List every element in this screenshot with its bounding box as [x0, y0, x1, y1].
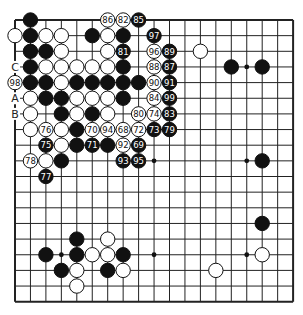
- black-stone: [85, 75, 99, 89]
- white-stone: 98: [8, 75, 22, 89]
- white-stone: [54, 138, 68, 152]
- black-stone: [224, 60, 238, 74]
- move-number: 78: [25, 156, 36, 166]
- go-board[interactable]: CAB 868285978196898887989091849980748376…: [0, 0, 303, 315]
- white-stone: [39, 154, 53, 168]
- star-point: [244, 158, 249, 163]
- white-stone: [70, 263, 84, 277]
- black-stone: [85, 28, 99, 42]
- move-number: 99: [164, 93, 175, 103]
- stone-circle: [54, 154, 68, 168]
- white-stone: [70, 107, 84, 121]
- stone-circle: [23, 13, 37, 27]
- white-stone: 90: [147, 75, 161, 89]
- move-number: 81: [118, 47, 129, 57]
- stone-circle: [70, 75, 84, 89]
- black-stone: [255, 216, 269, 230]
- white-stone: [54, 28, 68, 42]
- black-stone: [255, 60, 269, 74]
- black-stone: [23, 44, 37, 58]
- black-stone: 85: [131, 13, 145, 27]
- black-stone: [70, 232, 84, 246]
- black-stone: 79: [162, 122, 176, 136]
- black-stone: [116, 60, 130, 74]
- stone-circle: [39, 60, 53, 74]
- move-number: 93: [118, 156, 129, 166]
- white-stone: [101, 107, 115, 121]
- black-stone: [85, 107, 99, 121]
- move-number: 84: [149, 93, 160, 103]
- stone-circle: [85, 107, 99, 121]
- move-number: 68: [118, 125, 129, 135]
- stone-circle: [101, 248, 115, 262]
- stone-circle: [23, 75, 37, 89]
- stone-circle: [255, 60, 269, 74]
- move-number: 86: [102, 15, 113, 25]
- white-stone: 78: [23, 154, 37, 168]
- white-stone: 80: [131, 107, 145, 121]
- black-stone: 87: [162, 60, 176, 74]
- stone-circle: [54, 75, 68, 89]
- stone-circle: [23, 107, 37, 121]
- black-stone: [116, 91, 130, 105]
- white-stone: [54, 44, 68, 58]
- black-stone: [39, 91, 53, 105]
- move-number: 87: [164, 62, 175, 72]
- stone-circle: [101, 75, 115, 89]
- stone-circle: [101, 91, 115, 105]
- white-stone: [101, 60, 115, 74]
- stone-circle: [85, 60, 99, 74]
- stone-circle: [85, 248, 99, 262]
- stone-circle: [8, 28, 22, 42]
- black-stone: [101, 263, 115, 277]
- stone-circle: [116, 75, 130, 89]
- stone-circle: [255, 216, 269, 230]
- black-stone: [54, 107, 68, 121]
- black-stone: 93: [116, 154, 130, 168]
- white-stone: 70: [85, 122, 99, 136]
- black-stone: [54, 154, 68, 168]
- star-point: [244, 65, 249, 70]
- white-stone: 88: [147, 60, 161, 74]
- stone-circle: [23, 28, 37, 42]
- white-stone: [54, 122, 68, 136]
- stone-circle: [85, 28, 99, 42]
- black-stone: [23, 75, 37, 89]
- stone-circle: [70, 122, 84, 136]
- stone-circle: [101, 107, 115, 121]
- stone-circle: [39, 154, 53, 168]
- move-number: 96: [149, 47, 160, 57]
- go-board-grid[interactable]: CAB 868285978196898887989091849980748376…: [0, 0, 303, 315]
- black-stone: [23, 60, 37, 74]
- white-stone: [54, 60, 68, 74]
- stone-circle: [116, 263, 130, 277]
- move-number: 95: [133, 156, 144, 166]
- stone-circle: [255, 154, 269, 168]
- stone-circle: [224, 60, 238, 74]
- stone-circle: [23, 60, 37, 74]
- white-stone: [8, 28, 22, 42]
- stone-circle: [193, 44, 207, 58]
- stone-circle: [39, 44, 53, 58]
- stone-circle: [70, 91, 84, 105]
- black-stone: [23, 28, 37, 42]
- white-stone: [101, 248, 115, 262]
- move-number: 94: [102, 125, 113, 135]
- stone-circle: [70, 279, 84, 293]
- stone-circle: [23, 91, 37, 105]
- move-number: 74: [149, 109, 160, 119]
- black-stone: [101, 75, 115, 89]
- white-stone: 72: [131, 122, 145, 136]
- stone-circle: [101, 44, 115, 58]
- star-point: [152, 252, 157, 257]
- stone-circle: [54, 107, 68, 121]
- black-stone: 89: [162, 44, 176, 58]
- white-stone: [101, 28, 115, 42]
- star-point: [59, 252, 64, 257]
- stone-circle: [101, 138, 115, 152]
- move-number: 80: [133, 109, 144, 119]
- black-stone: [39, 44, 53, 58]
- move-number: 71: [87, 140, 98, 150]
- move-number: 91: [164, 78, 175, 88]
- white-stone: [85, 91, 99, 105]
